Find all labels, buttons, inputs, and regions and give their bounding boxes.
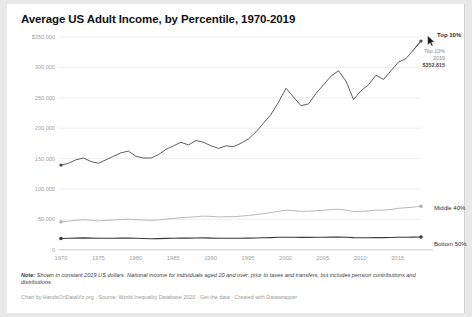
credit-created-with[interactable]: Created with Datawrapper bbox=[234, 294, 297, 300]
series-label-bottom50: Bottom 50% bbox=[434, 241, 467, 247]
point-middle40-2019 bbox=[419, 205, 422, 208]
x-tick-2015: 2015 bbox=[391, 255, 404, 261]
mouse-cursor-icon bbox=[427, 35, 436, 47]
tooltip-year: 2019 bbox=[393, 55, 445, 62]
chart-note: Note: Shown in constant 2019 US dollars.… bbox=[21, 272, 445, 287]
series-label-top10: Top 10% bbox=[437, 32, 461, 38]
point-top10-2019[interactable] bbox=[419, 39, 422, 42]
series-line-bottom50 bbox=[61, 237, 421, 239]
x-tick-1980: 1980 bbox=[129, 255, 142, 261]
y-tick-350000: $350,000 bbox=[32, 34, 55, 40]
credit-source: Source: World Inequality Database 2020 bbox=[99, 294, 196, 300]
x-tick-2000: 2000 bbox=[279, 255, 292, 261]
credit-chart-by[interactable]: Chart by HandsOnDataViz.org bbox=[21, 294, 94, 300]
x-tick-2005: 2005 bbox=[316, 255, 329, 261]
y-tick-200000: 200,000 bbox=[35, 125, 55, 131]
y-tick-150000: 150,000 bbox=[35, 156, 55, 162]
series-line-top10 bbox=[61, 41, 421, 165]
y-tick-100000: 100,000 bbox=[35, 186, 55, 192]
y-tick-0: 0 bbox=[52, 247, 55, 253]
credit-get-the-data-link[interactable]: Get the data bbox=[200, 294, 230, 300]
y-tick-50000: 50,000 bbox=[38, 216, 55, 222]
x-tick-1975: 1975 bbox=[92, 255, 105, 261]
point-top10-1970 bbox=[59, 163, 62, 166]
x-tick-1995: 1995 bbox=[242, 255, 255, 261]
point-middle40-1970 bbox=[59, 220, 62, 223]
gridlines bbox=[59, 37, 433, 250]
chart-plot-area: $350,000 300,000 250,000 200,000 150,000… bbox=[21, 32, 451, 264]
point-bottom50-2019 bbox=[419, 235, 423, 239]
page-title: Average US Adult Income, by Percentile, … bbox=[21, 13, 295, 25]
point-bottom50-1970 bbox=[59, 237, 63, 241]
series-label-middle40: Middle 40% bbox=[434, 205, 465, 211]
note-text: Shown in constant 2019 US dollars. Natio… bbox=[21, 272, 416, 285]
chart-credit: Chart by HandsOnDataViz.org · Source: Wo… bbox=[21, 294, 445, 301]
x-tick-1985: 1985 bbox=[167, 255, 180, 261]
chart-card: Average US Adult Income, by Percentile, … bbox=[7, 4, 465, 313]
note-prefix: Note: bbox=[21, 272, 35, 278]
line-chart-svg: $350,000 300,000 250,000 200,000 150,000… bbox=[21, 32, 451, 264]
y-tick-250000: 250,000 bbox=[35, 95, 55, 101]
x-tick-2010: 2010 bbox=[354, 255, 367, 261]
y-axis-ticklabels: $350,000 300,000 250,000 200,000 150,000… bbox=[32, 34, 55, 253]
x-tick-1970: 1970 bbox=[55, 255, 68, 261]
x-tick-1990: 1990 bbox=[204, 255, 217, 261]
y-tick-300000: 300,000 bbox=[35, 64, 55, 70]
tooltip-series-name: Top 10% bbox=[393, 48, 445, 55]
x-axis-ticklabels: 1970 1975 1980 1985 1990 1995 2000 2005 … bbox=[55, 255, 405, 261]
tooltip-value: $352,815 bbox=[393, 62, 445, 69]
tooltip-top10-2019: Top 10% 2019 $352,815 bbox=[393, 48, 445, 70]
